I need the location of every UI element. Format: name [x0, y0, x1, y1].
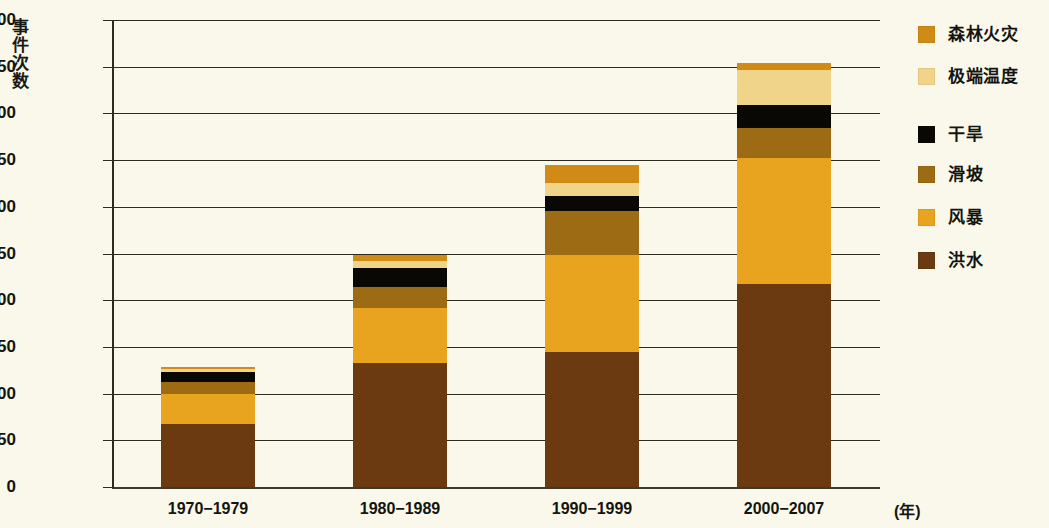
bar-stack — [353, 255, 447, 487]
x-axis-tick-label: 2000−2007 — [744, 500, 825, 518]
bar-stack — [161, 367, 255, 487]
legend-label: 滑坡 — [948, 165, 983, 184]
gridline — [112, 487, 880, 489]
legend-label: 风暴 — [948, 208, 983, 227]
legend-swatch-icon — [918, 26, 935, 43]
bar-segment[interactable] — [545, 183, 639, 195]
bar-segment[interactable] — [161, 367, 255, 369]
y-axis-tick-label: 350 — [0, 150, 16, 170]
bar-segment[interactable] — [353, 255, 447, 261]
bar-segment[interactable] — [353, 308, 447, 363]
bar-segment[interactable] — [545, 165, 639, 184]
bar-stack — [545, 165, 639, 487]
legend-item[interactable]: 洪水 — [918, 250, 983, 270]
y-axis-tick-mark — [103, 207, 114, 208]
bar-segment[interactable] — [353, 287, 447, 308]
legend-item[interactable]: 森林火灾 — [918, 24, 1018, 44]
bar-segment[interactable] — [737, 70, 831, 105]
y-axis-tick-mark — [103, 440, 114, 441]
legend-item[interactable]: 滑坡 — [918, 164, 983, 184]
bar-segment[interactable] — [737, 158, 831, 284]
y-axis-tick-mark — [103, 67, 114, 68]
legend-item[interactable]: 极端温度 — [918, 66, 1018, 86]
bar-segment[interactable] — [737, 128, 831, 158]
bar-segment[interactable] — [545, 352, 639, 487]
y-axis-tick-mark — [103, 113, 114, 114]
legend-label: 干旱 — [948, 125, 983, 144]
legend-item[interactable]: 干旱 — [918, 124, 983, 144]
y-axis-tick-mark — [103, 347, 114, 348]
y-axis-tick-mark — [103, 394, 114, 395]
bar-segment[interactable] — [545, 196, 639, 211]
y-axis-tick-label: 0 — [0, 477, 16, 497]
y-axis-tick-label: 150 — [0, 337, 16, 357]
y-axis-tick-mark — [103, 160, 114, 161]
legend-label: 洪水 — [948, 251, 983, 270]
bar-segment[interactable] — [161, 382, 255, 393]
bar-segment[interactable] — [545, 211, 639, 256]
legend-label: 极端温度 — [948, 67, 1018, 86]
plot-area — [112, 20, 880, 487]
bar-segment[interactable] — [353, 363, 447, 487]
bar-stack — [737, 63, 831, 487]
y-axis-tick-mark — [103, 20, 114, 21]
legend-swatch-icon — [918, 68, 935, 85]
y-axis-tick-label: 250 — [0, 244, 16, 264]
y-axis-tick-mark — [103, 487, 114, 488]
legend-swatch-icon — [918, 166, 935, 183]
bar-group[interactable] — [161, 367, 255, 487]
x-axis-unit-label: (年) — [894, 498, 921, 522]
bar-segment[interactable] — [161, 394, 255, 425]
bar-segment[interactable] — [737, 105, 831, 128]
bar-segment[interactable] — [161, 424, 255, 487]
bar-group[interactable] — [353, 255, 447, 487]
stacked-bar-chart: 事件次数 050100150200250300350400450500 1970… — [0, 0, 1049, 528]
legend-swatch-icon — [918, 126, 935, 143]
bar-segment[interactable] — [353, 268, 447, 288]
y-axis-tick-label: 300 — [0, 197, 16, 217]
gridline — [112, 20, 880, 21]
legend-item[interactable]: 风暴 — [918, 207, 983, 227]
bar-segment[interactable] — [161, 372, 255, 382]
bar-group[interactable] — [737, 63, 831, 487]
bar-segment[interactable] — [737, 284, 831, 487]
y-axis-tick-label: 100 — [0, 384, 16, 404]
bar-segment[interactable] — [353, 261, 447, 268]
y-axis-tick-label: 450 — [0, 57, 16, 77]
y-axis-tick-label: 500 — [0, 10, 16, 30]
legend-label: 森林火灾 — [948, 25, 1018, 44]
x-axis-tick-label: 1980−1989 — [360, 500, 441, 518]
x-axis-tick-label: 1990−1999 — [552, 500, 633, 518]
y-axis-tick-label: 400 — [0, 103, 16, 123]
bar-segment[interactable] — [161, 369, 255, 372]
y-axis-tick-mark — [103, 300, 114, 301]
y-axis-tick-label: 50 — [0, 430, 16, 450]
y-axis-tick-mark — [103, 254, 114, 255]
x-axis-tick-label: 1970−1979 — [168, 500, 249, 518]
legend-swatch-icon — [918, 209, 935, 226]
bar-group[interactable] — [545, 165, 639, 487]
bar-segment[interactable] — [545, 255, 639, 351]
y-axis-tick-label: 200 — [0, 290, 16, 310]
legend-swatch-icon — [918, 252, 935, 269]
bar-segment[interactable] — [737, 63, 831, 70]
